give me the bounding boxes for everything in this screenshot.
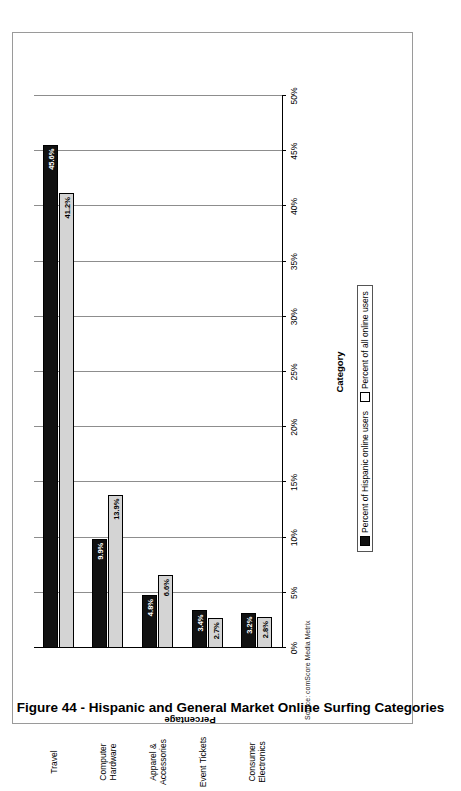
axis-tick-label: 40% [289,186,299,226]
axis-tick [282,150,286,151]
bar-value-label: 4.8% [144,599,157,616]
chart-legend: Percent of Hispanic online users Percent… [357,285,373,552]
axis-tick-label: 5% [289,573,299,613]
category-label: Event Tickets [198,726,208,791]
axis-tick [282,481,286,482]
rotated-chart-container: 0%5%10%15%20%25%30%35%40%45%50% 45.6%41.… [12,32,411,722]
bar-group: 3.4%2.7%Event Tickets [183,170,233,722]
bar-value-label: 6.6% [160,579,173,596]
bar: 2.8% [257,617,272,648]
figure-caption: Figure 44 - Hispanic and General Market … [0,700,461,715]
bar-value-label: 2.7% [210,622,223,639]
bar-value-label: 41.2% [61,197,74,218]
axis-tick [282,426,286,427]
category-label: ConsumerElectronics [247,726,267,791]
bar-value-label: 13.9% [110,499,123,520]
axis-tick-label: 10% [289,518,299,558]
bar: 3.4% [192,610,207,648]
bar-value-label: 3.2% [243,617,256,634]
bar-chart: 0%5%10%15%20%25%30%35%40%45%50% 45.6%41.… [12,32,411,722]
axis-tick-label: 0% [289,628,299,668]
legend-label-all: Percent of all online users [360,291,370,389]
axis-tick [282,592,286,593]
bar-group: 3.2%2.8%ConsumerElectronics [232,170,282,722]
axis-tick [282,205,286,206]
legend-swatch-hispanic-icon [360,536,370,546]
axis-tick [282,261,286,262]
axis-tick-label: 20% [289,407,299,447]
axis-tick-label: 45% [289,131,299,171]
legend-item-hispanic: Percent of Hispanic online users [360,411,370,546]
bar-value-label: 45.6% [45,149,58,170]
bar: 4.8% [142,595,157,648]
category-axis-line [282,96,283,648]
gridline [34,150,282,151]
axis-tick-label: 15% [289,462,299,502]
category-label: Travel [49,726,59,791]
category-axis-title: Category [334,96,345,648]
axis-tick-label: 30% [289,297,299,337]
category-label: Apparel &Accessories [148,726,168,791]
bar: 2.7% [208,618,223,648]
legend-item-all: Percent of all online users [360,291,370,402]
bar-value-label: 2.8% [259,621,272,638]
bar-group: 4.8%6.6%Apparel &Accessories [133,170,183,722]
bar: 6.6% [158,575,173,648]
axis-tick [282,316,286,317]
gridline [34,95,282,96]
axis-tick-label: 50% [289,76,299,116]
axis-tick [282,537,286,538]
legend-label-hispanic: Percent of Hispanic online users [360,411,370,533]
bar-value-label: 3.4% [194,614,207,631]
bar: 13.9% [108,495,123,648]
value-axis-title: Percentage [130,715,250,726]
axis-tick [282,647,286,648]
axis-tick-label: 35% [289,242,299,282]
bar: 45.6% [43,145,58,648]
bar-value-label: 9.9% [94,543,107,560]
bar-group: 45.6%41.2%Travel [34,170,84,722]
bar: 41.2% [59,193,74,648]
bar: 9.9% [92,539,107,648]
axis-tick-label: 25% [289,352,299,392]
bar: 3.2% [241,613,256,648]
category-label: Computer Hardware [98,726,118,791]
legend-swatch-all-icon [360,392,370,402]
axis-tick [282,371,286,372]
bar-group: 9.9%13.9%Computer Hardware [84,170,134,722]
axis-tick [282,95,286,96]
